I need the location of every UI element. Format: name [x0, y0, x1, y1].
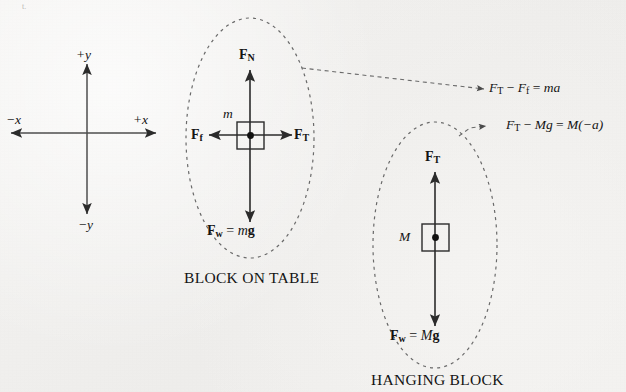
force-symbol: F	[239, 47, 248, 62]
equation-block-on-table: FT − Ff = ma	[489, 81, 560, 96]
weight-gravity: g	[248, 223, 255, 238]
mass-label-block-on-table: m	[223, 107, 233, 121]
force-subscript: T	[434, 154, 441, 165]
mass-label-hanging-block: M	[399, 230, 410, 244]
leader-lines	[302, 68, 486, 136]
axis-label-plus-x: +x	[133, 113, 148, 127]
weight-subscript: w	[399, 333, 406, 344]
figure-canvas: t.	[0, 0, 626, 392]
equation-hanging-block: FT − Mg = M(−a)	[506, 118, 603, 133]
weight-subscript: w	[216, 228, 223, 239]
weight-mass: m	[238, 223, 248, 238]
axis-label-minus-x: −x	[6, 113, 21, 127]
leader-line-hanging-block	[459, 126, 486, 136]
weight-equation-block-on-table: Fw = mg	[207, 224, 255, 239]
weight-symbol: F	[207, 223, 216, 238]
weight-mass: M	[421, 328, 433, 343]
equation-rhs: M(−a)	[567, 117, 603, 132]
force-label-tension-block: FT	[294, 128, 309, 143]
equation-equals: =	[556, 117, 564, 132]
force-label-tension-hanging: FT	[425, 150, 440, 165]
force-subscript: N	[248, 52, 255, 63]
leader-line-block-on-table	[302, 68, 484, 89]
equation-force-1: F	[489, 80, 497, 95]
equation-force-2: F	[518, 80, 526, 95]
caption-hanging-block: HANGING BLOCK	[371, 372, 504, 388]
equation-force-1: F	[506, 117, 514, 132]
block-on-table-center-dot	[247, 132, 254, 139]
force-symbol: F	[191, 127, 200, 142]
equation-rhs: ma	[544, 80, 561, 95]
figure-vector-layer	[0, 0, 626, 392]
axis-label-minus-y: −y	[78, 218, 93, 232]
axis-label-plus-y: +y	[76, 48, 91, 62]
force-label-normal: FN	[239, 48, 255, 63]
equation-mg: Mg	[535, 117, 553, 132]
weight-gravity: g	[432, 328, 439, 343]
force-subscript: f	[200, 132, 204, 143]
force-subscript: T	[303, 132, 310, 143]
force-symbol: F	[425, 149, 434, 164]
force-label-friction-block: Ff	[191, 128, 203, 143]
coordinate-axes	[11, 64, 156, 214]
weight-symbol: F	[390, 328, 399, 343]
hanging-block-center-dot	[432, 234, 439, 241]
force-symbol: F	[294, 127, 303, 142]
caption-block-on-table: BLOCK ON TABLE	[184, 270, 319, 286]
weight-equation-hanging-block: Fw = Mg	[390, 329, 439, 344]
